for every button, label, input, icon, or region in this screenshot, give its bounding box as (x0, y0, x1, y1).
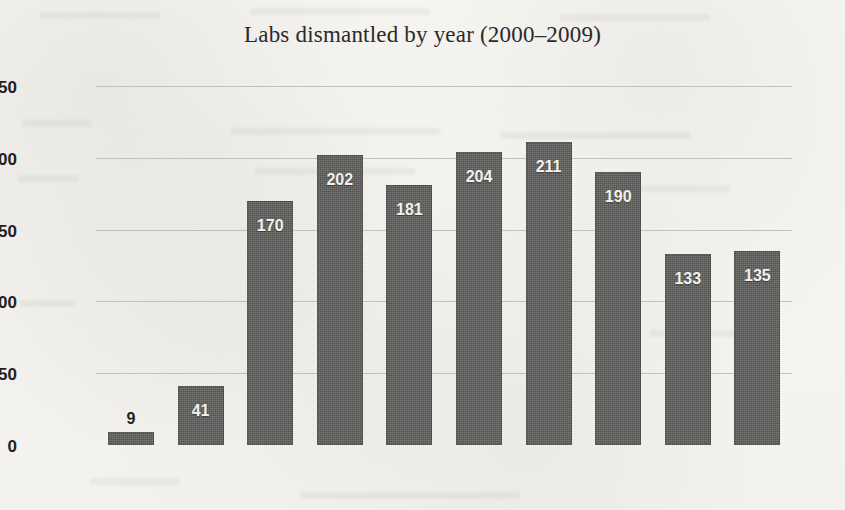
y-axis-tick-label: 50 (0, 366, 17, 383)
bar[interactable] (317, 155, 363, 445)
gridline (96, 158, 792, 159)
bar-value-label: 170 (240, 218, 300, 234)
y-axis-tick-label: 0 (0, 438, 17, 455)
page-bleedthrough-mark (22, 120, 92, 127)
page-bleedthrough-mark (90, 478, 180, 485)
scanned-chart-page: Labs dismantled by year (2000–2009) 0501… (0, 0, 845, 510)
bar[interactable] (595, 172, 641, 445)
page-bleedthrough-mark (20, 300, 75, 307)
bar-value-label: 204 (449, 169, 509, 185)
y-axis-tick-label: 250 (0, 79, 17, 96)
page-bleedthrough-mark (18, 175, 78, 182)
plot-area: 050100150200250 941170202181204211190133… (96, 86, 792, 445)
page-bleedthrough-mark (300, 492, 520, 499)
bar-value-label: 190 (588, 189, 648, 205)
bar-value-label: 202 (310, 172, 370, 188)
y-axis-tick-label: 150 (0, 223, 17, 240)
chart-title: Labs dismantled by year (2000–2009) (0, 22, 845, 48)
bar-value-label: 133 (658, 271, 718, 287)
bar-value-label: 211 (519, 159, 579, 175)
bar-value-label: 135 (727, 268, 787, 284)
bar-value-label: 181 (379, 202, 439, 218)
page-bleedthrough-mark (40, 12, 160, 19)
bar[interactable] (456, 152, 502, 445)
gridline (96, 230, 792, 231)
page-bleedthrough-mark (250, 8, 430, 15)
bar[interactable] (247, 201, 293, 445)
bar-value-label: 9 (101, 411, 161, 427)
bar[interactable] (386, 185, 432, 445)
y-axis-tick-label: 200 (0, 151, 17, 168)
bar[interactable] (108, 432, 154, 445)
gridline (96, 86, 792, 87)
bar-value-label: 41 (171, 403, 231, 419)
page-bleedthrough-mark (560, 14, 710, 21)
bar[interactable] (526, 142, 572, 445)
y-axis-tick-label: 100 (0, 294, 17, 311)
